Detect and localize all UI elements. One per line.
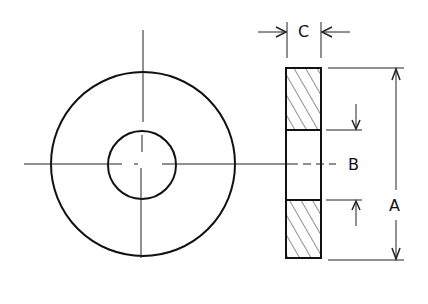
drawing-canvas <box>0 0 428 304</box>
label-c: C <box>298 24 309 40</box>
washer-drawing: C B A <box>0 0 428 304</box>
front-view <box>24 30 290 258</box>
bottom-hatched-section <box>286 200 321 258</box>
dimension-a <box>328 68 404 260</box>
label-b: B <box>348 157 359 173</box>
side-section-view <box>286 68 336 258</box>
label-a: A <box>389 198 400 214</box>
top-hatched-section <box>286 68 321 130</box>
